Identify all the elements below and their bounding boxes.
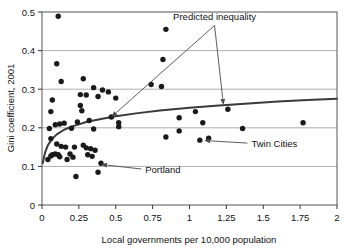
x-axis-ticks bbox=[42, 205, 337, 209]
x-axis-title: Local governments per 10,000 population bbox=[102, 234, 277, 245]
data-point bbox=[116, 124, 121, 129]
data-point bbox=[87, 118, 92, 123]
data-point bbox=[57, 154, 62, 159]
x-tick-label: 0 bbox=[39, 212, 44, 223]
data-point bbox=[92, 147, 97, 152]
data-point bbox=[95, 94, 100, 99]
data-point bbox=[176, 128, 181, 133]
data-point bbox=[78, 92, 83, 97]
data-point bbox=[47, 126, 52, 131]
x-tick-label: 0.75 bbox=[143, 212, 162, 223]
data-point bbox=[50, 97, 55, 102]
data-point bbox=[106, 89, 111, 94]
x-tick-label: 1.5 bbox=[257, 212, 270, 223]
data-point bbox=[56, 14, 61, 19]
y-axis-ticks bbox=[38, 12, 42, 205]
data-point bbox=[91, 126, 96, 131]
chart-canvas: 00.250.50.7511.251.51.752 00.10.20.30.40… bbox=[0, 0, 356, 252]
data-point bbox=[148, 82, 153, 87]
data-point bbox=[48, 109, 53, 114]
data-point bbox=[100, 87, 105, 92]
data-point bbox=[70, 154, 75, 159]
data-point bbox=[91, 85, 96, 90]
annotation-label-twin-cities: Twin Cities bbox=[251, 138, 297, 149]
data-point bbox=[225, 107, 230, 112]
data-point bbox=[163, 134, 168, 139]
data-point bbox=[176, 115, 181, 120]
x-tick-label: 0.25 bbox=[70, 212, 89, 223]
x-axis-tick-labels: 00.250.50.7511.251.51.752 bbox=[39, 212, 339, 223]
x-tick-label: 1.75 bbox=[291, 212, 310, 223]
y-tick-label: 0.4 bbox=[22, 45, 35, 56]
data-point bbox=[73, 174, 78, 179]
y-tick-label: 0.3 bbox=[22, 84, 35, 95]
data-point bbox=[300, 120, 305, 125]
data-point bbox=[163, 27, 168, 32]
data-point bbox=[159, 84, 164, 89]
scatter-chart: 00.250.50.7511.251.51.752 00.10.20.30.40… bbox=[0, 0, 356, 252]
data-point bbox=[240, 126, 245, 131]
y-axis-tick-labels: 00.10.20.30.40.5 bbox=[22, 7, 35, 211]
x-tick-label: 2 bbox=[334, 212, 339, 223]
y-tick-label: 0.1 bbox=[22, 161, 35, 172]
data-point bbox=[75, 119, 80, 124]
data-point bbox=[193, 109, 198, 114]
data-point bbox=[54, 61, 59, 66]
data-point bbox=[160, 57, 165, 62]
y-tick-label: 0.2 bbox=[22, 122, 35, 133]
data-point bbox=[197, 137, 202, 142]
data-point bbox=[89, 154, 94, 159]
data-point bbox=[48, 136, 53, 141]
data-point bbox=[72, 144, 77, 149]
data-point bbox=[81, 76, 86, 81]
x-tick-label: 1.25 bbox=[217, 212, 236, 223]
x-tick-label: 1 bbox=[187, 212, 192, 223]
annotation-label-predicted-inequality: Predicted inequality bbox=[173, 11, 256, 22]
y-axis-title: Gini coefficient, 2001 bbox=[5, 64, 16, 153]
data-point bbox=[69, 125, 74, 130]
data-point bbox=[58, 79, 63, 84]
data-point bbox=[200, 120, 205, 125]
data-point bbox=[61, 120, 66, 125]
data-point bbox=[113, 95, 118, 100]
data-point bbox=[79, 108, 84, 113]
data-point bbox=[84, 92, 89, 97]
y-tick-label: 0.5 bbox=[22, 7, 35, 18]
annotation-label-portland: Portland bbox=[145, 164, 180, 175]
x-tick-label: 0.5 bbox=[109, 212, 122, 223]
data-point bbox=[63, 144, 68, 149]
data-point bbox=[95, 169, 100, 174]
data-point bbox=[78, 103, 83, 108]
y-tick-label: 0 bbox=[30, 200, 35, 211]
data-point bbox=[64, 157, 69, 162]
